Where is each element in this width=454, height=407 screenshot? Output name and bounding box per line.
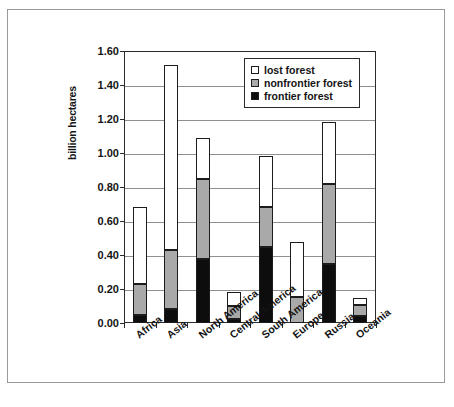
chart-area: billion hectares 1.601.401.201.000.800.6… <box>8 10 446 384</box>
bar-segment-lost-forest[interactable] <box>353 298 367 306</box>
y-axis-tick-labels: 1.601.401.201.000.800.600.400.200.00 <box>84 51 119 323</box>
legend-item[interactable]: frontier forest <box>251 89 352 102</box>
y-tick-label: 1.40 <box>85 80 119 90</box>
y-tick-label: 0.40 <box>85 250 119 260</box>
legend-item[interactable]: nonfrontier forest <box>251 76 352 89</box>
bar-segment-lost-forest[interactable] <box>164 65 178 249</box>
bar-segment-lost-forest[interactable] <box>322 122 336 184</box>
y-tick-label: 0.20 <box>85 284 119 294</box>
chart-legend: lost forestnonfrontier forestfrontier fo… <box>244 58 360 108</box>
figure-frame: billion hectares 1.601.401.201.000.800.6… <box>7 9 445 383</box>
bar-segment-nonfrontier-forest[interactable] <box>164 250 178 309</box>
bar-segment-nonfrontier-forest[interactable] <box>196 179 210 260</box>
x-axis-tick-labels: AfricaAsiaNorth AmericaCentral AmericaSo… <box>8 323 446 383</box>
bar-segment-lost-forest[interactable] <box>196 138 210 179</box>
y-tick-label: 0.60 <box>85 216 119 226</box>
y-tick-label: 1.60 <box>85 46 119 56</box>
bar-segment-frontier-forest[interactable] <box>196 259 210 323</box>
y-axis-title: billion hectares <box>66 58 80 188</box>
legend-item[interactable]: lost forest <box>251 63 352 76</box>
bar-segment-nonfrontier-forest[interactable] <box>322 184 336 263</box>
y-tick-label: 1.00 <box>85 148 119 158</box>
legend-swatch-lost-icon <box>251 66 259 74</box>
bar-group[interactable] <box>196 138 210 323</box>
legend-swatch-frontier-icon <box>251 92 259 100</box>
y-tick-label: 1.20 <box>85 114 119 124</box>
bar-segment-nonfrontier-forest[interactable] <box>353 305 367 316</box>
bar-group[interactable] <box>164 65 178 323</box>
bar-segment-lost-forest[interactable] <box>133 207 147 284</box>
legend-swatch-nonfrontier-icon <box>251 79 259 87</box>
y-tick-label: 0.80 <box>85 182 119 192</box>
figure-caption <box>12 392 312 406</box>
bar-segment-nonfrontier-forest[interactable] <box>259 207 273 246</box>
bar-segment-nonfrontier-forest[interactable] <box>133 284 147 315</box>
legend-label: frontier forest <box>264 90 333 102</box>
legend-label: lost forest <box>264 64 315 76</box>
bar-segment-lost-forest[interactable] <box>259 156 273 207</box>
bar-group[interactable] <box>133 207 147 323</box>
legend-label: nonfrontier forest <box>264 77 352 89</box>
